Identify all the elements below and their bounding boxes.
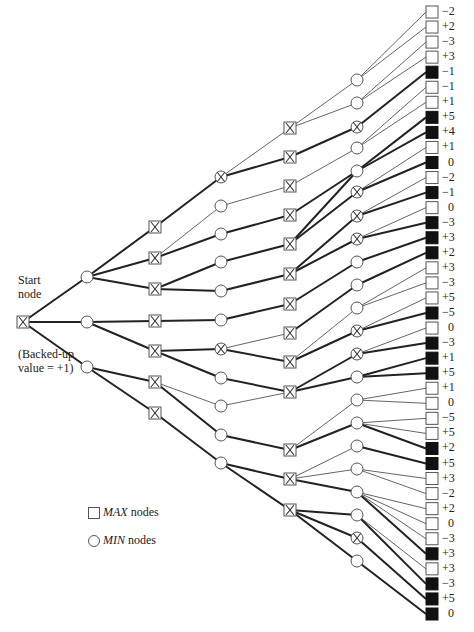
leaf-value: +5 (442, 591, 470, 606)
min-node-pruned-icon (351, 186, 363, 198)
leaf-node-icon (426, 382, 438, 394)
tree-edge (221, 215, 290, 234)
min-node-icon (351, 371, 363, 383)
tree-edge (357, 492, 426, 524)
backed-label-line1: (Backed-up (18, 347, 74, 361)
leaf-value: +3 (442, 561, 470, 576)
leaf-node-icon (426, 81, 438, 93)
leaf-node-filled-icon (426, 111, 438, 123)
backed-label-line2: value = +1) (18, 361, 74, 375)
max-node-pruned-icon (284, 209, 296, 221)
leaf-nodes (426, 6, 438, 620)
leaf-value: +1 (442, 94, 470, 109)
leaf-value: 0 (442, 516, 470, 531)
min-node-pruned-icon (351, 233, 363, 245)
tree-edge (155, 234, 221, 258)
tree-edge (221, 274, 290, 291)
leaf-node-filled-icon (426, 578, 438, 590)
game-tree-diagram (0, 0, 474, 632)
leaf-value: −1 (442, 79, 470, 94)
max-node-pruned-icon (284, 180, 296, 192)
tree-edge (87, 258, 155, 277)
leaf-value: −3 (442, 335, 470, 350)
min-node-pruned-icon (215, 171, 227, 183)
tree-edge (357, 298, 426, 331)
leaf-node-filled-icon (426, 307, 438, 319)
leaf-node-icon (426, 202, 438, 214)
leaf-node-filled-icon (426, 232, 438, 244)
leaf-node-icon (426, 292, 438, 304)
leaf-value: +3 (442, 471, 470, 486)
max-node-pruned-icon (149, 315, 161, 327)
min-node-icon (215, 228, 227, 240)
leaf-node-filled-icon (426, 608, 438, 620)
tree-edge (290, 479, 357, 492)
tree-edge (357, 343, 426, 354)
leaf-value: −3 (442, 576, 470, 591)
max-node-pruned-icon (17, 316, 29, 328)
backed-up-value-label: (Backed-up value = +1) (18, 347, 74, 375)
max-node-pruned-icon (149, 376, 161, 388)
max-node-pruned-icon (284, 122, 296, 134)
tree-edge (290, 80, 357, 128)
min-node-icon (351, 256, 363, 268)
max-node-pruned-icon (284, 327, 296, 339)
max-node-pruned-icon (284, 356, 296, 368)
min-node-pruned-icon (351, 121, 363, 133)
tree-edge (221, 128, 290, 177)
leaf-value: +2 (442, 245, 470, 260)
tree-edge (357, 469, 426, 494)
leaf-node-filled-icon (426, 217, 438, 229)
leaf-value: −5 (442, 410, 470, 425)
leaf-node-icon (426, 277, 438, 289)
tree-edge (357, 147, 426, 192)
leaf-node-filled-icon (426, 442, 438, 454)
min-node-icon (351, 74, 363, 86)
tree-edge (357, 132, 426, 171)
tree-edge (221, 392, 290, 406)
leaf-node-filled-icon (426, 548, 438, 560)
leaf-value: +5 (442, 456, 470, 471)
min-node-icon (215, 314, 227, 326)
leaf-value: −3 (442, 531, 470, 546)
tree-edge (155, 382, 221, 406)
leaf-value: +2 (442, 440, 470, 455)
min-node-pruned-icon (351, 532, 363, 544)
tree-edge (357, 423, 426, 433)
tree-edge (155, 177, 221, 227)
leaf-node-icon (426, 473, 438, 485)
leaf-value: −2 (442, 486, 470, 501)
legend-min-italic: MIN (103, 533, 125, 547)
tree-edge (221, 435, 290, 450)
leaf-value: +1 (442, 350, 470, 365)
min-node-icon (351, 142, 363, 154)
start-label-line2: node (18, 287, 41, 301)
max-node-pruned-icon (284, 504, 296, 516)
tree-edge (357, 418, 426, 423)
min-node-icon (351, 463, 363, 475)
tree-edge (155, 351, 221, 378)
leaf-node-icon (426, 262, 438, 274)
tree-edge (290, 354, 357, 392)
min-node-icon (215, 256, 227, 268)
tree-edge (357, 12, 426, 80)
tree-edge (290, 148, 357, 186)
tree-edge (221, 186, 290, 206)
tree-edge (290, 510, 357, 561)
tree-edge (357, 268, 426, 308)
min-node-icon (351, 279, 363, 291)
tree-edge (357, 388, 426, 400)
tree-edge (290, 377, 357, 392)
tree-edge (155, 289, 221, 291)
min-node-icon (81, 271, 93, 283)
leaf-value: +3 (442, 49, 470, 64)
tree-edge (357, 400, 426, 403)
min-node-icon (215, 457, 227, 469)
legend-min-text: nodes (125, 533, 156, 547)
leaf-node-icon (426, 488, 438, 500)
min-node-icon (81, 361, 93, 373)
tree-edge (357, 283, 426, 308)
leaf-value: +2 (442, 19, 470, 34)
tree-edge (357, 223, 426, 239)
min-node-pruned-icon (351, 348, 363, 360)
